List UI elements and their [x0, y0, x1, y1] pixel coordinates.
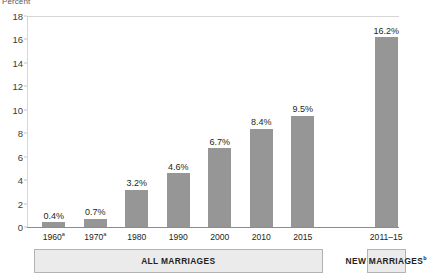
y-axis-tick-label: 4: [18, 175, 23, 186]
y-axis-tick-mark: [24, 39, 27, 40]
y-axis-tick-mark: [24, 16, 27, 17]
y-axis-tick-label: 18: [12, 11, 23, 22]
y-axis-tick-label: 0: [18, 222, 23, 233]
x-axis-tick-label: 1980: [127, 232, 146, 242]
bar: 16.2%: [375, 37, 398, 227]
footnote-marker: b: [423, 255, 427, 261]
x-axis-tick-label: 2015: [293, 232, 312, 242]
y-axis-tick-label: 6: [18, 151, 23, 162]
y-axis-title: Percent: [2, 0, 30, 6]
footnote-marker: a: [103, 231, 106, 237]
bar: 3.2%: [125, 190, 148, 228]
category-group-label: NEW MARRIAGESb: [346, 256, 427, 266]
category-group-label: ALL MARRIAGES: [141, 256, 215, 266]
x-axis-baseline: [27, 227, 399, 228]
y-axis-tick-label: 14: [12, 57, 23, 68]
bar-value-label: 4.6%: [168, 162, 189, 172]
bar-value-label: 9.5%: [292, 104, 313, 114]
plot-left-border: [27, 16, 28, 228]
x-axis-tick-label: 1990: [169, 232, 188, 242]
category-group-box: ALL MARRIAGES: [34, 249, 323, 273]
bar-value-label: 0.7%: [85, 207, 106, 217]
y-axis-tick-label: 10: [12, 104, 23, 115]
bar-value-label: 6.7%: [209, 137, 230, 147]
y-axis-tick-mark: [24, 62, 27, 63]
bar-value-label: 3.2%: [126, 178, 147, 188]
y-axis-tick-mark: [24, 203, 27, 204]
footnote-marker: a: [62, 231, 65, 237]
y-axis-tick-mark: [24, 133, 27, 134]
bar: 8.4%: [250, 129, 273, 227]
bar: 4.6%: [167, 173, 190, 227]
y-axis-tick-label: 16: [12, 34, 23, 45]
x-axis-tick-label: 2011–15: [370, 232, 403, 242]
y-axis-tick-label: 12: [12, 81, 23, 92]
y-axis-tick-label: 2: [18, 198, 23, 209]
bar-value-label: 8.4%: [251, 117, 272, 127]
category-group-box: NEW MARRIAGESb: [367, 249, 407, 273]
bar-value-label: 16.2%: [373, 26, 399, 36]
bar: 9.5%: [291, 116, 314, 227]
y-axis-tick-mark: [24, 86, 27, 87]
y-axis-tick-mark: [24, 180, 27, 181]
x-axis-tick-label: 2000: [210, 232, 229, 242]
y-axis-tick-mark: [24, 109, 27, 110]
y-axis-tick-mark: [24, 156, 27, 157]
bar: 0.7%: [84, 219, 107, 227]
plot-top-border: [27, 16, 399, 17]
x-axis-tick-label: 2010: [252, 232, 271, 242]
bar: 6.7%: [208, 148, 231, 227]
plot-area: 024681012141618 0.4%0.7%3.2%4.6%6.7%8.4%…: [27, 16, 399, 228]
bar-value-label: 0.4%: [43, 211, 64, 221]
x-axis-tick-label: 1960a: [43, 232, 65, 242]
y-axis-tick-label: 8: [18, 128, 23, 139]
x-axis-tick-label: 1970a: [84, 232, 106, 242]
